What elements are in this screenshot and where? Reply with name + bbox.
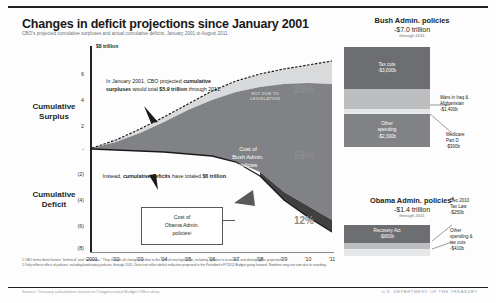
y-tick-0: -	[68, 146, 84, 152]
bush-wars-value: -$1,400b	[440, 107, 494, 113]
bush-panel-amount: -$7.0 trillion	[336, 26, 488, 33]
share-percent-not-due-to-legislation: 29%	[294, 84, 314, 95]
callout-obama-l3: policies¹	[165, 230, 199, 238]
obama-other-value: -$410b	[450, 246, 496, 252]
annotation-top-text1: In January 2001, CBO projected	[106, 78, 182, 84]
annotation-bottom-bold2: $6 trillion	[202, 173, 226, 179]
deficit-area-chart: $8 trillion 6 4 2 - (2) (4) (6) (8) 2001…	[22, 40, 332, 255]
page-subtitle: CBO's projected cumulative surpluses and…	[22, 31, 228, 36]
deficit-label-line1: Cumulative	[22, 190, 86, 200]
share-percent-obama-policies: 12%	[294, 215, 314, 226]
annotation-projected-surplus: In January 2001, CBO projected cumulativ…	[106, 78, 230, 93]
annotation-top-text4: through 2011.	[187, 86, 221, 92]
surplus-label-line2: Surplus	[22, 112, 86, 122]
bush-panel-title: Bush Admin. policies	[336, 16, 488, 25]
page-title: Changes in deficit projections since Jan…	[22, 17, 309, 31]
callout-obama-l1: Cost of	[165, 214, 199, 222]
y-tick-n8: (8)	[68, 245, 84, 251]
y-axis-line	[90, 46, 92, 252]
infographic-page: Changes in deficit projections since Jan…	[0, 0, 496, 303]
annotation-bottom-text3: .	[226, 173, 227, 179]
y-tick-n6: (6)	[68, 223, 84, 229]
y-tick-n2: (2)	[68, 171, 84, 177]
obama-segment-recovery-act: Recovery Act -$800b	[344, 225, 430, 243]
area-label-bush-policies: Cost of Bush Admin. policies	[215, 145, 281, 169]
source-note: Source: Treasury calculations based on C…	[22, 289, 160, 294]
bottom-divider	[8, 287, 488, 288]
bush-callout-medicare: Medicare Part D -$300b	[446, 132, 494, 150]
obama-callout-tax-law: Dec 2010 Tax Law -$250b	[450, 198, 496, 216]
callout-obama-policies: Cost of Obama Admin. policies¹	[141, 207, 223, 245]
annotation-actual-deficit: Instead, cumulative deficits have totale…	[102, 173, 228, 181]
annotation-top-text2: would	[131, 86, 146, 92]
bush-stacked-bar: Tax cuts -$3,000b Other spending -$2,300…	[344, 47, 430, 147]
annotation-bottom-text1: Instead,	[103, 173, 123, 179]
bush-other-value: -$2,300b	[378, 134, 397, 140]
area-label-bush-l3: policies	[215, 161, 281, 169]
bush-callout-wars: Wars in Iraq & Afghanistan -$1,400b	[440, 95, 494, 113]
surplus-label-line1: Cumulative	[22, 102, 86, 112]
y-tick-2: 2	[68, 123, 84, 129]
deficit-label-line2: Deficit	[22, 200, 86, 210]
annotation-top-text3: total	[148, 86, 159, 92]
obama-callout-other: Other spending & tax cuts -$410b	[450, 228, 496, 252]
top-divider	[8, 6, 488, 8]
obama-stacked-bar: Recovery Act -$800b	[344, 225, 430, 256]
y-axis-top-label: $8 trillion	[96, 43, 118, 49]
callout-pointer-obama	[234, 190, 255, 206]
annotation-bottom-text2: have totaled	[172, 173, 202, 179]
bush-other-label2: spending	[378, 127, 397, 133]
annotation-pointer-top	[144, 106, 158, 123]
area-label-bush-l2: Bush Admin.	[215, 153, 281, 161]
share-percent-bush-policies: 59%	[294, 150, 314, 161]
bush-segment-tax-cuts: Tax cuts -$3,000b	[344, 47, 430, 89]
obama-segment-other	[344, 249, 430, 256]
department-label: U.S. DEPARTMENT OF THE TREASURY	[381, 289, 478, 294]
annotation-bottom-bold1: cumulative deficits	[123, 173, 171, 179]
y-tick-6: 6	[68, 71, 84, 77]
axis-label-cumulative-surplus: Cumulative Surplus	[22, 102, 86, 122]
axis-label-cumulative-deficit: Cumulative Deficit	[22, 190, 86, 210]
bush-segment-other-spending: Other spending -$2,300b	[344, 114, 430, 147]
bush-medicare-value: -$300b	[446, 144, 494, 150]
footnote-2: 2 Only reflects effect of policies, incl…	[22, 263, 332, 268]
bush-tax-cuts-value: -$3,000b	[378, 68, 396, 74]
footnotes: 1 CBO terms these factors "technical" an…	[22, 258, 332, 268]
panel-bush-policies: Bush Admin. policies -$7.0 trillion thro…	[336, 16, 488, 38]
bush-panel-through: through 2011	[336, 33, 488, 38]
area-label-bush-l1: Cost of	[215, 145, 281, 153]
callout-obama-l2: Obama Admin.	[165, 222, 199, 230]
obama-recovery-value: -$800b	[373, 234, 400, 240]
x-axis-line	[90, 252, 334, 253]
annotation-top-bold2: $5.9 trillion	[159, 86, 187, 92]
annotation-not-due-to-legislation: NOT DUE TO LEGISLATION	[241, 91, 289, 102]
bush-segment-wars	[344, 89, 430, 109]
obama-taxlaw-value: -$250b	[450, 210, 496, 216]
